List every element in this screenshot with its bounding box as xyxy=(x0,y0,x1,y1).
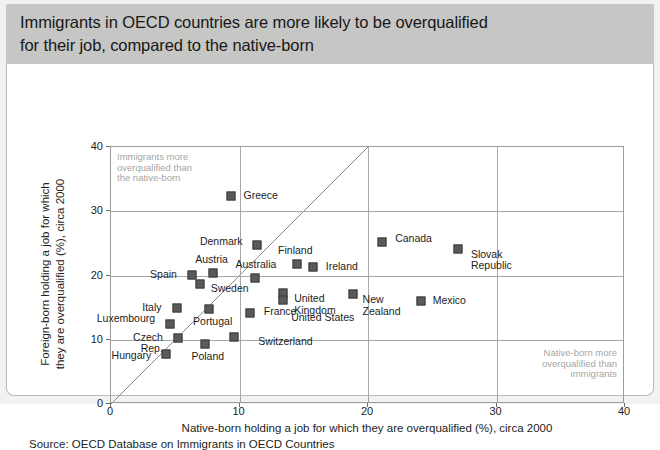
data-point-label: Slovak Republic xyxy=(471,249,512,272)
y-axis-tick-mark xyxy=(106,210,110,211)
source-note: Source: OECD Database on Immigrants in O… xyxy=(29,438,335,450)
y-axis-tick-label: 30 xyxy=(7,204,103,216)
y-axis-tick-mark xyxy=(106,403,110,404)
data-point-label: Poland xyxy=(191,351,224,363)
data-point-label: Spain xyxy=(150,269,177,281)
data-point-marker xyxy=(416,297,425,306)
data-point-label: Canada xyxy=(395,233,432,245)
data-point-marker xyxy=(308,262,317,271)
annotation-immigrants-more-overqualified: Immigrants more overqualified than the n… xyxy=(117,152,192,184)
y-axis-tick-label: 0 xyxy=(7,397,103,409)
data-point-label: France xyxy=(264,306,297,318)
data-point-label: Australia xyxy=(235,259,276,271)
data-point-marker xyxy=(279,295,288,304)
data-point-marker xyxy=(200,339,209,348)
data-point-marker xyxy=(226,191,235,200)
data-point-label: Finland xyxy=(278,245,312,257)
data-point-label: Denmark xyxy=(200,236,243,248)
y-axis-tick-mark xyxy=(106,275,110,276)
data-point-marker xyxy=(253,240,262,249)
y-gridline xyxy=(111,211,623,212)
data-point-label: Mexico xyxy=(433,295,466,307)
x-gridline xyxy=(368,147,369,402)
data-point-label: Portugal xyxy=(193,316,232,328)
data-point-label: New Zealand xyxy=(363,294,401,317)
data-point-marker xyxy=(162,349,171,358)
figure-card: Foreign-born holding a job for which the… xyxy=(6,64,654,396)
data-point-marker xyxy=(195,280,204,289)
figure-banner: Immigrants in OECD countries are more li… xyxy=(6,4,654,64)
x-gridline xyxy=(240,147,241,402)
figure-title: Immigrants in OECD countries are more li… xyxy=(20,11,640,57)
data-point-marker xyxy=(187,270,196,279)
data-point-label: United States xyxy=(291,312,354,324)
data-point-label: Luxembourg xyxy=(97,313,155,325)
data-point-marker xyxy=(166,320,175,329)
data-point-marker xyxy=(245,308,254,317)
data-point-marker xyxy=(293,259,302,268)
data-point-label: Greece xyxy=(244,190,278,202)
data-point-marker xyxy=(250,274,259,283)
x-axis-tick-mark xyxy=(239,403,240,407)
data-point-marker xyxy=(230,333,239,342)
data-point-marker xyxy=(378,238,387,247)
y-axis-tick-mark xyxy=(106,146,110,147)
annotation-nativeborn-more-overqualified: Native-born more overqualified than immi… xyxy=(477,348,617,380)
x-axis-label: Native-born holding a job for which they… xyxy=(110,422,624,434)
y-axis-tick-label: 40 xyxy=(7,140,103,152)
data-point-marker xyxy=(204,304,213,313)
data-point-marker xyxy=(348,290,357,299)
y-gridline xyxy=(111,340,623,341)
y-axis-tick-label: 10 xyxy=(7,333,103,345)
data-point-label: Hungary xyxy=(112,350,152,362)
x-axis-tick-mark xyxy=(110,403,111,407)
data-point-marker xyxy=(172,303,181,312)
data-point-marker xyxy=(173,333,182,342)
data-point-marker xyxy=(453,244,462,253)
y-axis-tick-mark xyxy=(106,339,110,340)
data-point-label: Sweden xyxy=(211,283,249,295)
y-axis-tick-label: 20 xyxy=(7,269,103,281)
x-axis-tick-mark xyxy=(624,403,625,407)
x-axis-tick-mark xyxy=(496,403,497,407)
data-point-marker xyxy=(208,268,217,277)
data-point-label: Ireland xyxy=(326,261,358,273)
x-axis-tick-mark xyxy=(367,403,368,407)
data-point-label: Austria xyxy=(195,254,228,266)
data-point-label: Switzerland xyxy=(258,336,312,348)
